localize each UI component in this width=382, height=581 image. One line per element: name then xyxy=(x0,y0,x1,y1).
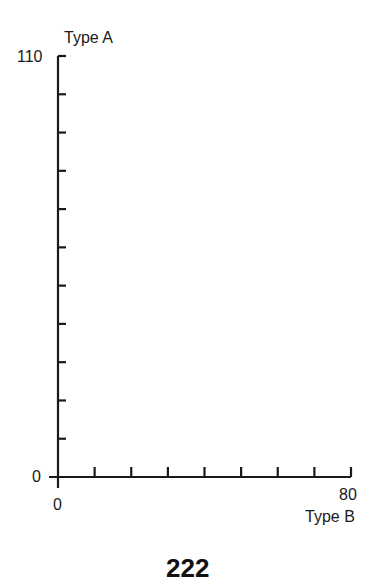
x-axis-ticks xyxy=(95,467,351,477)
page-number: 222 xyxy=(166,553,209,581)
y-axis-ticks xyxy=(58,56,66,439)
x-axis-min-label: 0 xyxy=(53,497,62,513)
x-axis-max-label: 80 xyxy=(339,487,357,503)
y-axis-max-label: 110 xyxy=(17,49,43,65)
x-axis-title: Type B xyxy=(305,509,355,525)
y-axis-min-label: 0 xyxy=(32,469,41,485)
y-axis-title: Type A xyxy=(64,30,113,46)
